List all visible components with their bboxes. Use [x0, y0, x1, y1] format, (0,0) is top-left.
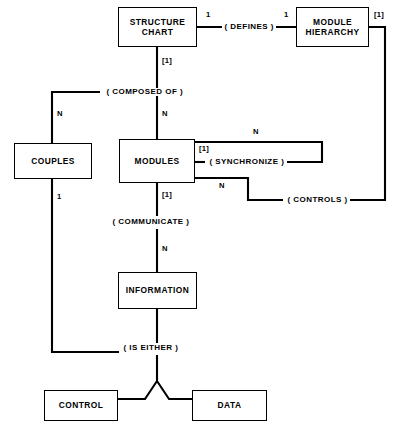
entity-modules-label: MODULES [134, 156, 179, 166]
er-diagram: STRUCTURE CHART MODULE HIERARCHY COUPLES… [0, 0, 403, 433]
wire-fork-right [157, 381, 192, 399]
wire-modules-to-controls [195, 178, 283, 200]
cardinality-structure-down: [1] [161, 57, 173, 65]
entity-modules[interactable]: MODULES [119, 139, 195, 183]
cardinality-controls-n: N [218, 182, 226, 190]
entity-couples[interactable]: COUPLES [14, 143, 92, 179]
entity-structure-chart-label: STRUCTURE CHART [130, 17, 186, 37]
relationship-composed-of[interactable]: ( COMPOSED OF ) [104, 88, 186, 96]
entity-couples-label: COUPLES [31, 156, 75, 166]
relationship-defines[interactable]: ( DEFINES ) [222, 23, 276, 31]
cardinality-communicate-1: [1] [161, 191, 173, 199]
relationship-communicate[interactable]: ( COMMUNICATE ) [110, 218, 192, 226]
wire-hierarchy-to-controls [332, 27, 385, 200]
entity-control-label: CONTROL [59, 400, 104, 410]
relationship-controls[interactable]: ( CONTROLS ) [285, 196, 350, 204]
wire-fork-left [118, 381, 157, 399]
connector-lines [0, 0, 403, 433]
entity-module-hierarchy-line1: MODULE [313, 17, 352, 27]
cardinality-modules-n: N [161, 110, 169, 118]
entity-structure-chart[interactable]: STRUCTURE CHART [118, 7, 197, 47]
cardinality-defines-right: 1 [283, 11, 289, 19]
entity-module-hierarchy[interactable]: MODULE HIERARCHY [296, 7, 369, 47]
cardinality-information-n: N [161, 245, 169, 253]
cardinality-couples-1: 1 [56, 193, 62, 201]
entity-data-label: DATA [218, 400, 242, 410]
entity-structure-chart-line1: STRUCTURE [130, 17, 186, 27]
cardinality-synchronize-left: [1] [198, 145, 210, 153]
relationship-is-either[interactable]: ( IS EITHER ) [121, 344, 181, 352]
cardinality-couples-n: N [56, 110, 64, 118]
entity-data[interactable]: DATA [192, 390, 267, 421]
relationship-synchronize[interactable]: ( SYNCHRONIZE ) [207, 158, 287, 166]
cardinality-defines-left: 1 [205, 11, 211, 19]
entity-control[interactable]: CONTROL [44, 390, 118, 421]
entity-module-hierarchy-label: MODULE HIERARCHY [306, 17, 360, 37]
cardinality-hierarchy-right: [1] [373, 11, 385, 19]
wire-couples-to-iseither [52, 179, 119, 352]
entity-information[interactable]: INFORMATION [118, 272, 197, 309]
entity-module-hierarchy-line2: HIERARCHY [306, 27, 360, 37]
cardinality-synchronize-n: N [252, 128, 260, 136]
entity-information-label: INFORMATION [126, 285, 189, 295]
entity-structure-chart-line2: CHART [142, 27, 174, 37]
